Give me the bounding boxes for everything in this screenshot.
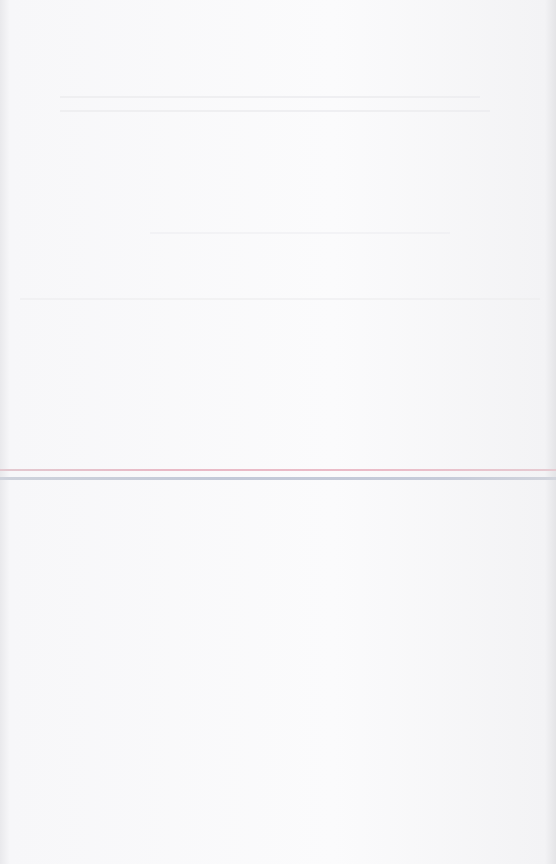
bleed-through-text <box>20 298 540 300</box>
horizontal-rule-red <box>0 469 556 471</box>
bleed-through-text <box>60 96 480 98</box>
horizontal-rule-blue <box>0 477 556 480</box>
bleed-through-text <box>60 110 490 112</box>
bleed-through-text <box>150 232 450 234</box>
document-page <box>0 0 556 864</box>
